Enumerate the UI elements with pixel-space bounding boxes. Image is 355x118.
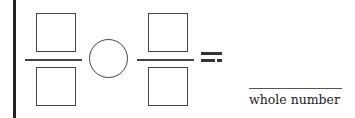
left-numerator-box[interactable] bbox=[36, 13, 76, 52]
equals-sign-bottom-stroke-tail bbox=[217, 59, 222, 62]
equals-sign-bottom-stroke bbox=[201, 59, 215, 62]
right-fraction-bar bbox=[137, 59, 194, 61]
left-fraction-bar bbox=[25, 59, 82, 61]
answer-line[interactable] bbox=[249, 88, 342, 89]
left-denominator-box[interactable] bbox=[36, 67, 76, 106]
equals-sign-top-stroke bbox=[201, 52, 222, 55]
left-margin-bar bbox=[13, 0, 16, 118]
operator-circle[interactable] bbox=[89, 39, 128, 78]
right-numerator-box[interactable] bbox=[148, 13, 188, 52]
right-denominator-box[interactable] bbox=[148, 67, 188, 106]
answer-label: whole number bbox=[249, 92, 340, 107]
